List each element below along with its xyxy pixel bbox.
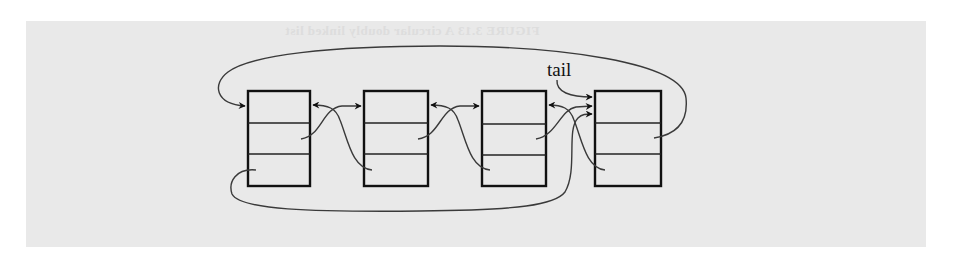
prev-arrow-4-to-3 bbox=[549, 105, 605, 170]
next-arrow-3-to-4 bbox=[536, 106, 592, 139]
node-1 bbox=[248, 91, 310, 186]
linked-list-diagram: tail bbox=[0, 0, 959, 259]
prev-arrow-1-to-4-wraparound bbox=[231, 114, 592, 211]
node-1-box bbox=[248, 91, 310, 186]
node-4 bbox=[595, 91, 661, 186]
tail-pointer-arrow bbox=[557, 80, 592, 97]
node-4-box bbox=[595, 91, 661, 186]
tail-label: tail bbox=[547, 59, 571, 80]
